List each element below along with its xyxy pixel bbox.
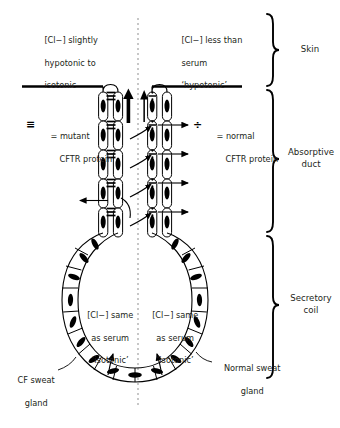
left-coil-line2: as serum: [91, 333, 129, 343]
mutant-legend-line1: = mutant: [50, 131, 89, 141]
mutant-legend-line2: CFTR protein: [50, 154, 112, 165]
cf-gland-line1: CF sweat: [18, 375, 55, 385]
normal-transport-arrows: [130, 125, 188, 226]
secretory-coil-label-line1: Secretory: [290, 293, 331, 303]
right-top-line1: [Cl−] less than: [181, 35, 242, 45]
right-top-line3: ‘hypotonic’: [181, 80, 227, 90]
right-top-annotation: [Cl−] less than serum ‘hypotonic’: [171, 24, 269, 102]
right-top-line2: serum: [181, 58, 207, 68]
normal-legend-line2: CFTR protein: [216, 154, 278, 165]
bracket-label-secretory-coil: Secretory coil: [284, 293, 338, 316]
secretory-coil-label-line2: coil: [304, 305, 319, 315]
figure-canvas: [Cl−] slightly hypotonic to isotonic [Cl…: [0, 0, 340, 428]
left-coil-annotation: [Cl−] same as serum ‘isotonic’: [76, 299, 134, 377]
right-coil-line2: as serum: [156, 333, 194, 343]
normal-sweat-gland-label: Normal sweat gland: [211, 352, 283, 408]
normal-gland-line2: gland: [241, 386, 264, 396]
cf-sweat-gland-label: CF sweat gland: [4, 364, 58, 420]
skin-label-text: Skin: [301, 44, 319, 54]
left-coil-line1: [Cl−] same: [87, 310, 133, 320]
left-top-annotation: [Cl−] slightly hypotonic to isotonic: [34, 24, 132, 102]
normal-gland-line1: Normal sweat: [224, 363, 280, 373]
absorptive-duct-label-line1: Absorptive: [288, 147, 334, 157]
absorptive-duct-label-line2: duct: [302, 159, 321, 169]
normal-legend-line1: = normal: [216, 131, 254, 141]
mutant-cftr-legend-text: = mutant CFTR protein: [40, 120, 124, 176]
left-coil-line3: ‘isotonic’: [92, 355, 129, 365]
right-coil-line1: [Cl−] same: [152, 310, 198, 320]
left-top-line3: isotonic: [44, 80, 76, 90]
bracket-label-skin: Skin: [286, 44, 334, 56]
bracket-label-absorptive-duct: Absorptive duct: [284, 147, 338, 170]
normal-cftr-legend-symbol: ÷: [193, 119, 202, 130]
mutant-cftr-legend-symbol: ≡: [26, 119, 35, 130]
right-coil-line3: ‘isotonic’: [157, 355, 194, 365]
normal-duct-flow-arrow: [140, 90, 148, 122]
cf-gland-line2: gland: [25, 398, 48, 408]
left-top-line2: hypotonic to: [44, 58, 95, 68]
left-top-line1: [Cl−] slightly: [44, 35, 97, 45]
right-coil-annotation: [Cl−] same as serum ‘isotonic’: [141, 299, 199, 377]
